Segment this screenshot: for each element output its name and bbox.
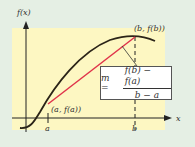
x-axis-label: x [176,114,181,123]
point-b-label: (b, f(b)) [134,24,165,33]
formula-lhs: m = [101,73,120,93]
point-a-label: (a, f(a)) [51,105,81,114]
slope-formula-box: m = f(b) − f(a) b − a [100,66,172,100]
formula-numerator: f(b) − f(a) [123,65,171,89]
formula-denominator: b − a [135,89,159,101]
x-axis-arrow-icon [164,115,172,121]
tick-label-b: b [132,124,137,133]
tick-label-a: a [45,124,50,133]
y-axis-label: f(x) [16,8,31,17]
formula-fraction: f(b) − f(a) b − a [123,65,171,101]
y-axis-arrow-icon [23,21,29,29]
